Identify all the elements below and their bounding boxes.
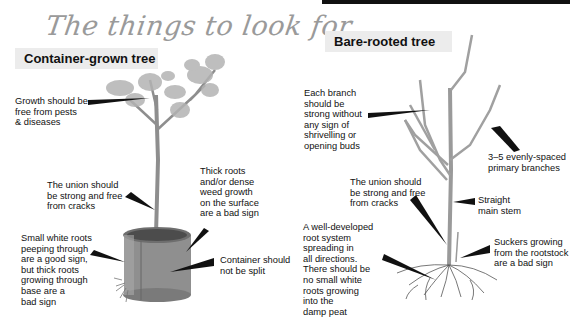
callout-branch: Each branch should be strong without any…: [304, 88, 362, 152]
callout-rootsys: A well-developed root system spreading i…: [303, 222, 373, 317]
pointer-union: [125, 192, 155, 210]
container-pot-icon: [123, 227, 191, 302]
callout-split: Container should not be split: [220, 255, 290, 276]
callout-union-bare: The union should be strong and free from…: [350, 177, 425, 209]
pointer-rootsys: [382, 254, 436, 280]
foliage-icon: [106, 54, 225, 118]
pointer-stem: [453, 198, 475, 205]
callout-growth: Growth should be free from pests & disea…: [15, 96, 88, 128]
callout-roots: Small white roots peeping through are a …: [21, 233, 92, 307]
pointer-primary: [491, 126, 520, 152]
callout-suckers: Suckers growing from the rootstock are a…: [494, 237, 568, 269]
pointer-branch: [368, 110, 430, 118]
callout-primary: 3–5 evenly-spaced primary branches: [488, 152, 566, 173]
pointer-suckers: [460, 245, 490, 258]
pointer-roots: [90, 250, 125, 262]
callout-weeds: Thick roots and/or dense weed growth on …: [200, 166, 259, 219]
callout-stem: Straight main stem: [478, 195, 521, 216]
callout-union-container: The union should be strong and free from…: [47, 180, 122, 212]
